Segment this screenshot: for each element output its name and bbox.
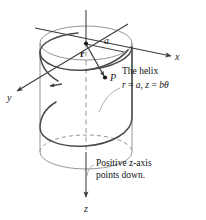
z-axis-label: z	[84, 203, 88, 214]
x-axis-label: x	[175, 51, 179, 62]
helix-direction-arrow	[50, 84, 62, 86]
y-axis-label: y	[7, 92, 11, 103]
helix-label-leader	[99, 88, 120, 112]
helix-annotation-title: The helix	[122, 66, 158, 77]
helix-cylinder-figure: x y z a r P The helix r = a, z = bθ Posi…	[0, 0, 206, 220]
equation-equals-1: =	[126, 80, 136, 90]
point-p-label: P	[110, 72, 116, 83]
x-axis-line	[35, 28, 171, 56]
point-p-dot	[103, 75, 107, 79]
radius-label: a	[104, 35, 109, 46]
origin-dot	[84, 41, 88, 45]
z-axis-note-line-2: points down.	[96, 170, 145, 181]
equation-equals-2: =	[149, 80, 159, 90]
z-axis-note-line-1: Positive z-axis	[96, 158, 152, 169]
position-vector-label: r	[80, 48, 84, 59]
equation-theta: θ	[164, 80, 169, 90]
helix-equation-annotation: r = a, z = bθ	[122, 80, 169, 91]
diagram-canvas	[0, 0, 206, 220]
z-note-leader	[87, 165, 94, 176]
